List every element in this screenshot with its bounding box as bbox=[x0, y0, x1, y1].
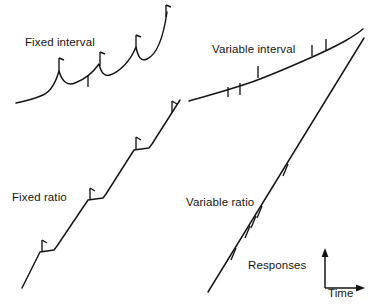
fixed-interval-plot bbox=[16, 5, 171, 103]
reinforcer-tick-1 bbox=[42, 240, 47, 252]
x-axis-label-time: Time bbox=[328, 287, 354, 299]
reinforcer-tick-2 bbox=[90, 188, 95, 200]
reinforcer-tick-3 bbox=[136, 137, 141, 149]
reinforcer-tick-1 bbox=[59, 58, 64, 72]
variable-interval-plot bbox=[189, 29, 363, 101]
variable-ratio-curve bbox=[208, 38, 364, 292]
panel-label-variable-interval: Variable interval bbox=[212, 43, 295, 55]
axis-key bbox=[322, 248, 365, 291]
variable-interval-curve bbox=[189, 29, 363, 101]
responses-axis-arrowhead bbox=[322, 248, 329, 257]
reinforcer-tick-2 bbox=[100, 52, 105, 66]
fixed-ratio-reinforcer-marks bbox=[42, 101, 177, 252]
cumulative-record-figure: Fixed interval Variable interval Fixed r… bbox=[0, 0, 371, 306]
panel-label-variable-ratio: Variable ratio bbox=[186, 196, 254, 208]
reinforcer-tick-3 bbox=[136, 35, 141, 49]
variable-ratio-reinforcer-marks bbox=[231, 164, 288, 260]
panel-label-fixed-ratio: Fixed ratio bbox=[12, 191, 67, 203]
time-axis-arrowhead bbox=[356, 285, 365, 292]
fixed-interval-curve bbox=[16, 12, 167, 103]
y-axis-label-responses: Responses bbox=[248, 259, 306, 271]
variable-ratio-plot bbox=[208, 38, 364, 292]
panel-label-fixed-interval: Fixed interval bbox=[25, 36, 95, 48]
